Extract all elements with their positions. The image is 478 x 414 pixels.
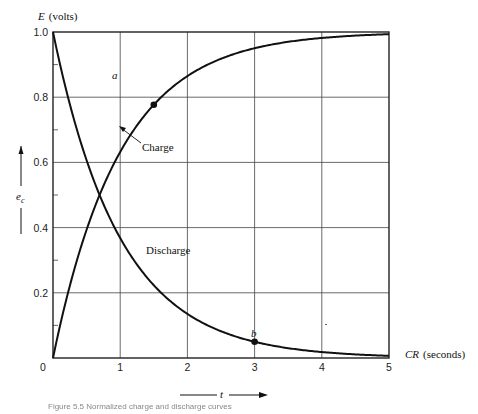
y-tick-label: 0.8	[33, 91, 48, 103]
x-tick-label: 3	[252, 361, 258, 373]
grid-lines	[53, 32, 389, 358]
x-axis-title: CR(seconds)	[405, 348, 466, 361]
discharge-curve	[53, 32, 389, 356]
t-label: t	[220, 388, 224, 400]
arrow-right-icon	[259, 392, 268, 398]
origin-label: 0	[40, 361, 46, 373]
charge-label: Charge	[142, 141, 174, 153]
ec-label: ec	[16, 190, 25, 205]
ec-arrow: ec	[16, 146, 25, 234]
y-tick-label: 0.4	[33, 222, 48, 234]
y-tick-label: 0.2	[33, 287, 48, 299]
figure-caption: Figure 5.5 Normalized charge and dischar…	[48, 402, 232, 411]
plot-frame	[53, 32, 389, 358]
x-tick-label: 4	[319, 361, 325, 373]
speck	[325, 324, 327, 325]
rc-chart: 123450.20.40.60.81.0 E(volts) CR(seconds…	[0, 0, 478, 414]
axes: 123450.20.40.60.81.0	[33, 26, 392, 373]
y-axis-title: E(volts)	[37, 10, 78, 23]
charge-curve	[53, 34, 389, 358]
x-tick-label: 2	[184, 361, 190, 373]
curves	[53, 32, 389, 358]
annotations	[119, 101, 327, 345]
x-tick-label: 5	[386, 361, 392, 373]
arrow-up-icon	[19, 146, 24, 154]
t-arrow: t	[180, 388, 268, 400]
y-tick-label: 1.0	[33, 26, 48, 38]
point-b-dot	[251, 338, 258, 345]
discharge-label: Discharge	[146, 244, 191, 256]
x-tick-label: 1	[117, 361, 123, 373]
point-a-dot	[151, 101, 158, 108]
y-tick-label: 0.6	[33, 156, 48, 168]
point-a-label: a	[112, 69, 118, 81]
point-b-label: b	[251, 327, 257, 339]
